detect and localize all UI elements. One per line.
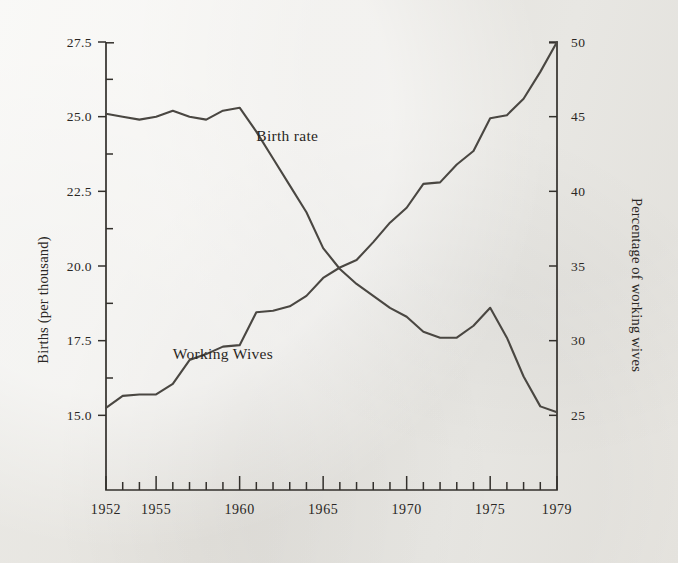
x-tick-label: 1970 bbox=[391, 502, 421, 517]
birth-rate-line bbox=[106, 108, 557, 413]
right-axis-ticks bbox=[549, 42, 557, 415]
left-tick-label: 25.0 bbox=[67, 109, 92, 124]
right-tick-label: 25 bbox=[571, 408, 585, 423]
x-tick-label: 1952 bbox=[91, 502, 121, 517]
x-tick-label: 1960 bbox=[224, 502, 254, 517]
right-tick-label: 30 bbox=[571, 333, 585, 348]
left-axis-tick-labels: 27.525.022.520.017.515.0 bbox=[67, 35, 92, 423]
left-tick-label: 15.0 bbox=[67, 408, 92, 423]
axis-frame bbox=[106, 42, 557, 490]
right-axis-tick-labels: 504540353025 bbox=[571, 35, 585, 423]
right-tick-label: 35 bbox=[571, 259, 585, 274]
working-wives-series-label: Working Wives bbox=[173, 345, 273, 362]
x-tick-label: 1979 bbox=[542, 502, 572, 517]
x-tick-label: 1965 bbox=[308, 502, 338, 517]
left-axis-title: Births (per thousand) bbox=[35, 236, 52, 363]
left-tick-label: 22.5 bbox=[67, 184, 92, 199]
left-tick-label: 27.5 bbox=[67, 35, 92, 50]
right-tick-label: 40 bbox=[571, 184, 585, 199]
birth-rate-series-label: Birth rate bbox=[256, 127, 318, 144]
line-chart: 27.525.022.520.017.515.0 504540353025 19… bbox=[0, 0, 678, 563]
right-tick-label: 50 bbox=[571, 35, 585, 50]
x-tick-label: 1975 bbox=[475, 502, 505, 517]
right-tick-label: 45 bbox=[571, 109, 585, 124]
x-axis-ticks bbox=[106, 476, 557, 490]
chart-figure: 27.525.022.520.017.515.0 504540353025 19… bbox=[0, 0, 678, 563]
x-axis-tick-labels: 1952195519601965197019751979 bbox=[91, 502, 572, 517]
x-tick-label: 1955 bbox=[141, 502, 171, 517]
left-tick-label: 17.5 bbox=[67, 333, 92, 348]
left-tick-label: 20.0 bbox=[67, 259, 92, 274]
right-axis-title: Percentage of working wives bbox=[629, 198, 645, 372]
